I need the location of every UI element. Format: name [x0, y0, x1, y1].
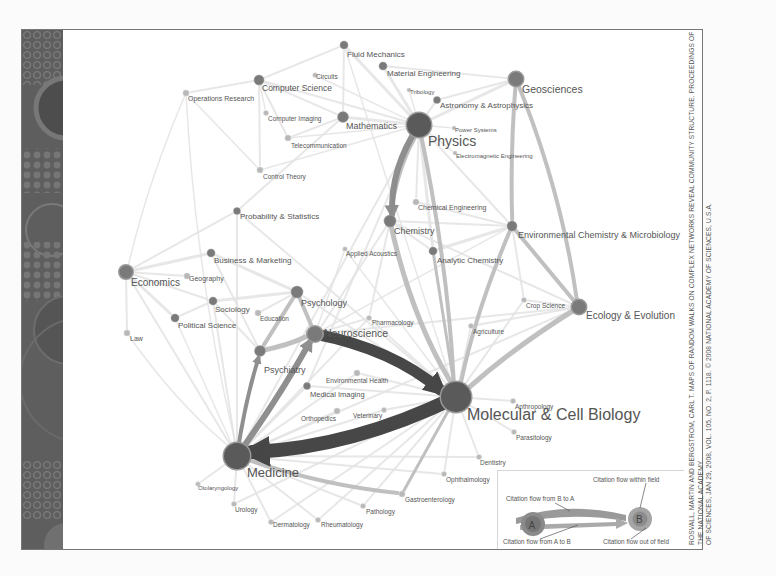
- label-astro: Astronomy & Astrophysics: [440, 101, 533, 110]
- label-compsci: Computer Science: [262, 83, 332, 93]
- legend-diagram: A B Citation flow from B to A Citation f…: [498, 471, 684, 549]
- label-ecology: Ecology & Evolution: [586, 310, 675, 321]
- label-pathology: Pathology: [366, 508, 396, 516]
- label-parasitology: Parasitology: [516, 434, 553, 442]
- node-psychology: [291, 286, 304, 299]
- legend-node-b-label: B: [636, 514, 643, 525]
- edge-neuroscience-to-appliedacoustics: [315, 253, 344, 334]
- label-mathematics: Mathematics: [346, 121, 398, 131]
- figure-credit: Rosvall, Martin and Bergstrom, Carl T. M…: [688, 30, 714, 545]
- label-powersys: Power Systems: [455, 127, 497, 133]
- label-circuits: Circuits: [316, 73, 338, 80]
- credit-line-2: of Sciences, Jan 29, 2008, Vol. 105, No.…: [705, 30, 714, 545]
- label-appliedacoustics: Applied Acoustics: [346, 250, 398, 258]
- label-orthopedics: Orthopedics: [301, 415, 337, 423]
- label-sociology: Sociology: [215, 305, 250, 314]
- label-neuroscience: Neuroscience: [324, 327, 388, 339]
- label-law: Law: [130, 335, 144, 342]
- legend-flow-out-label: Citation flow out of field: [603, 538, 670, 545]
- label-anthropology: Anthropology: [515, 403, 554, 411]
- node-telecom: [285, 135, 292, 142]
- label-emeng: Electromagnetic Engineering: [456, 153, 533, 159]
- label-geography: Geography: [189, 275, 224, 283]
- label-polisci: Political Science: [178, 321, 237, 330]
- label-cropscience: Crop Science: [526, 302, 565, 310]
- edge-controltheory-to-physics: [260, 129, 406, 170]
- edge-compsci-to-opsresearch: [190, 80, 259, 92]
- label-psychology: Psychology: [301, 298, 348, 308]
- edge-mathematics-to-probstats: [241, 117, 343, 208]
- edge-opsresearch-to-controltheory: [186, 93, 257, 167]
- node-medimaging: [303, 382, 311, 390]
- label-economics: Economics: [131, 277, 180, 288]
- legend-box: A B Citation flow from B to A Citation f…: [497, 470, 684, 549]
- node-ecology: [571, 299, 588, 316]
- node-analyticchem: [429, 247, 438, 256]
- legend-flow-a-to-b-label: Citation flow from A to B: [503, 538, 571, 545]
- label-urology: Urology: [235, 506, 258, 514]
- node-pathology: [360, 503, 366, 509]
- label-agriculture: Agriculture: [473, 328, 504, 336]
- edge-opsresearch-to-economics: [129, 93, 186, 264]
- label-compimaging: Computer Imaging: [268, 115, 322, 123]
- label-analyticchem: Analytic Chemistry: [437, 256, 503, 265]
- label-pharmacology: Pharmacology: [372, 319, 414, 327]
- label-envchem: Environmental Chemistry & Microbiology: [518, 230, 681, 240]
- label-medimaging: Medical Imaging: [310, 390, 365, 399]
- edge-astro-to-geosciences: [437, 81, 507, 100]
- node-neuroscience: [306, 325, 324, 343]
- node-orthopedics: [334, 408, 341, 415]
- edge-mathematics-to-fluidmech: [343, 50, 344, 117]
- legend-node-a-label: A: [529, 520, 536, 531]
- label-ophthalmology: Ophthalmology: [446, 476, 490, 484]
- edge-sociology-to-psychology: [213, 293, 290, 301]
- node-psychiatry: [254, 345, 266, 357]
- label-gastro: Gastroenterology: [405, 496, 456, 504]
- label-education: Education: [260, 315, 289, 322]
- node-fluidmech: [340, 41, 349, 50]
- legend-flow-within-label: Citation flow within field: [593, 476, 660, 483]
- node-materialeng: [379, 62, 388, 71]
- label-geosciences: Geosciences: [522, 83, 583, 95]
- edge-economics-to-business: [126, 254, 206, 272]
- node-sociology: [209, 297, 218, 306]
- label-probstats: Probability & Statistics: [240, 212, 319, 221]
- edge-analyticchem-to-envchem: [433, 228, 506, 251]
- legend-flow-b-to-a-label: Citation flow from B to A: [506, 495, 575, 502]
- label-veterinary: Veterinary: [353, 412, 383, 420]
- label-rheumatology: Rheumatology: [321, 521, 364, 529]
- label-opsresearch: Operations Research: [188, 95, 254, 103]
- label-dermatology: Dermatology: [273, 521, 311, 529]
- label-business: Business & Marketing: [214, 256, 291, 265]
- label-telecom: Telecommunication: [291, 142, 347, 149]
- label-chemeng: Chemical Engineering: [418, 204, 487, 212]
- node-envchem: [507, 221, 518, 232]
- edge-law-to-economics: [126, 280, 127, 333]
- nodes-layer: [118, 41, 588, 525]
- label-controltheory: Control Theory: [263, 173, 307, 181]
- label-tribology: Tribology: [410, 89, 434, 95]
- label-physics: Physics: [428, 133, 476, 149]
- edge-polisci-to-sociology: [175, 303, 208, 318]
- label-psychiatry: Psychiatry: [264, 365, 306, 375]
- label-medicine: Medicine: [247, 465, 299, 480]
- edge-law-to-medicine: [127, 333, 227, 445]
- label-molbio: Molecular & Cell Biology: [467, 406, 640, 423]
- label-envhealth: Environmental Health: [326, 377, 389, 384]
- label-materialeng: Material Engineering: [387, 69, 460, 78]
- edges-layer: [126, 45, 579, 520]
- node-rheumatology: [315, 517, 321, 523]
- credit-line-1: Rosvall, Martin and Bergstrom, Carl T. M…: [688, 30, 705, 545]
- node-pharmacology: [366, 315, 372, 321]
- label-otolaryngology: Otolaryngology: [198, 485, 238, 491]
- label-dentistry: Dentistry: [480, 459, 506, 467]
- label-chemistry: Chemistry: [394, 226, 435, 236]
- label-fluidmech: Fluid Mechanics: [347, 50, 405, 59]
- node-envhealth: [354, 370, 361, 377]
- edge-compsci-to-controltheory: [259, 80, 260, 166]
